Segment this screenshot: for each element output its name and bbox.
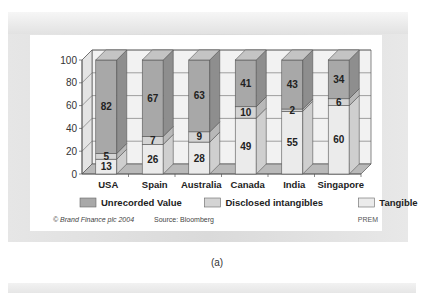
data-label: 41 xyxy=(240,78,252,89)
bar-segment-side xyxy=(117,50,127,153)
legend-swatch xyxy=(80,198,96,207)
legend-label: Disclosed intangibles xyxy=(225,197,323,208)
bottom-strip xyxy=(8,283,416,293)
data-label: 55 xyxy=(287,137,299,148)
figure-caption: (a) xyxy=(0,257,434,268)
bar-canada: 491041 xyxy=(235,50,266,174)
bar-spain: 26767 xyxy=(142,50,173,174)
y-tick-label: 100 xyxy=(60,55,77,66)
data-label: 43 xyxy=(287,79,299,90)
data-label: 7 xyxy=(150,135,156,146)
data-label: 34 xyxy=(333,74,345,85)
data-label: 49 xyxy=(240,141,252,152)
legend-label: Unrecorded Value xyxy=(101,197,182,208)
data-label: 13 xyxy=(101,161,113,172)
y-tick-label: 80 xyxy=(66,77,78,88)
stacked-3d-bar-chart: 02040608010013582USA26767Spain28963Austr… xyxy=(0,0,434,293)
data-label: 6 xyxy=(336,97,342,108)
bar-australia: 28963 xyxy=(189,50,220,174)
data-label: 67 xyxy=(147,93,159,104)
prem-tag: PREM xyxy=(358,216,378,223)
legend-item: Tangible xyxy=(358,197,417,208)
data-label: 10 xyxy=(240,107,252,118)
legend-swatch xyxy=(204,198,220,207)
x-tick-label: USA xyxy=(98,179,118,190)
y-tick-label: 60 xyxy=(66,100,78,111)
y-tick-label: 0 xyxy=(71,169,77,180)
bar-singapore: 60634 xyxy=(328,50,359,174)
x-tick-label: Singapore xyxy=(318,179,364,190)
bar-segment-side xyxy=(303,101,313,174)
bar-segment-side xyxy=(256,108,266,174)
x-tick-label: India xyxy=(283,179,306,190)
bar-usa: 13582 xyxy=(96,50,127,174)
x-tick-label: Australia xyxy=(181,179,222,190)
bar-india: 55243 xyxy=(282,50,313,174)
side-wall xyxy=(82,50,92,174)
data-label: 28 xyxy=(194,153,206,164)
data-label: 82 xyxy=(101,101,113,112)
legend-item: Unrecorded Value xyxy=(80,197,182,208)
source-text: Source: Bloomberg xyxy=(154,216,214,224)
copyright-text: © Brand Finance plc 2004 xyxy=(53,216,134,224)
legend-item: Disclosed intangibles xyxy=(204,197,323,208)
data-label: 63 xyxy=(194,90,206,101)
x-tick-label: Canada xyxy=(231,179,266,190)
bar-segment-side xyxy=(349,96,359,174)
bar-segment-side xyxy=(163,50,173,136)
data-label: 2 xyxy=(289,105,295,116)
data-label: 26 xyxy=(147,154,159,165)
data-label: 9 xyxy=(196,131,202,142)
data-label: 60 xyxy=(333,134,345,145)
legend-swatch xyxy=(358,198,374,207)
data-label: 5 xyxy=(103,151,109,162)
legend-label: Tangible xyxy=(379,197,417,208)
y-tick-label: 40 xyxy=(66,123,78,134)
bar-segment-side xyxy=(210,50,220,132)
x-tick-label: Spain xyxy=(142,179,168,190)
y-tick-label: 20 xyxy=(66,146,78,157)
